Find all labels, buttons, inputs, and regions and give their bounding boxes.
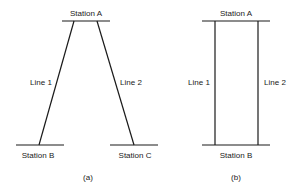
station-c-label-a: Station C [119,151,152,160]
station-b-label-a: Station B [22,151,54,160]
caption-b: (b) [231,173,241,182]
station-a-label-b: Station A [220,9,253,18]
station-b-label-b: Station B [220,151,252,160]
caption-a: (a) [83,173,93,182]
station-a-label-a: Station A [70,9,103,18]
line-2-label-a: Line 2 [120,78,142,87]
transmission-line-diagrams: Station A Line 1 Line 2 Station B Statio… [0,0,295,184]
line-1-label-b: Line 1 [188,78,210,87]
diagram-b: Station A Line 1 Line 2 Station B (b) [188,9,286,182]
diagram-a: Station A Line 1 Line 2 Station B Statio… [16,9,158,182]
line-2-label-b: Line 2 [264,78,286,87]
line-1-label-a: Line 1 [30,78,52,87]
